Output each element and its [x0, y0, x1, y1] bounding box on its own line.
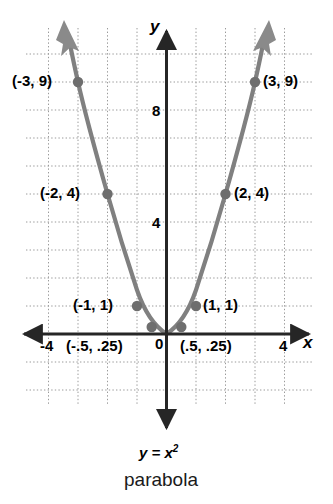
- parabola-figure: (-3, 9) (3, 9) (-2, 4) (2, 4) (-1, 1) (1…: [0, 0, 333, 504]
- x-tick-label-neg4: -4: [40, 338, 53, 353]
- origin-label: 0: [155, 336, 163, 351]
- parabola-arrow-right: [253, 20, 276, 56]
- equation-caption-text: y = x: [139, 444, 173, 461]
- point-marker: [191, 301, 201, 311]
- point-label-pos3: (3, 9): [263, 73, 298, 88]
- y-tick-label-4: 4: [152, 215, 160, 230]
- x-axis-label: x: [303, 334, 312, 351]
- point-marker: [250, 77, 260, 87]
- equation-exponent: 2: [173, 443, 179, 454]
- y-axis-label: y: [150, 18, 159, 35]
- point-marker: [176, 322, 186, 332]
- point-label-pos2: (2, 4): [234, 185, 269, 200]
- point-label-neg-half: (-.5, .25): [66, 338, 123, 353]
- point-label-neg3: (-3, 9): [12, 73, 52, 88]
- point-marker: [220, 189, 230, 199]
- parabola-arrow-left: [56, 20, 79, 56]
- point-marker: [102, 189, 112, 199]
- equation-caption: y = x2: [139, 444, 178, 460]
- point-label-neg1: (-1, 1): [73, 297, 113, 312]
- point-marker: [132, 301, 142, 311]
- point-marker: [147, 322, 157, 332]
- point-label-neg2: (-2, 4): [40, 185, 80, 200]
- x-tick-label-pos4: 4: [279, 338, 287, 353]
- figure-name-caption: parabola: [124, 470, 198, 489]
- point-marker: [73, 77, 83, 87]
- point-label-pos1: (1, 1): [203, 297, 238, 312]
- point-label-pos-half: (.5, .25): [180, 338, 232, 353]
- y-tick-label-8: 8: [152, 103, 160, 118]
